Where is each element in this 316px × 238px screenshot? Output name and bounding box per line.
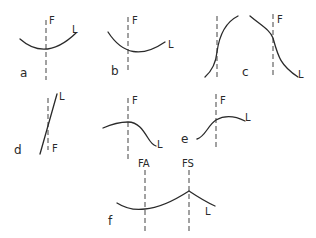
panel-label-d: d <box>14 143 22 157</box>
label-l: L <box>298 69 304 80</box>
curve-l <box>103 122 156 146</box>
panel-a: F L a <box>20 15 78 80</box>
curve-left <box>205 16 238 77</box>
label-f: F <box>220 95 226 106</box>
label-l: L <box>245 112 251 123</box>
label-l: L <box>205 206 211 217</box>
curve-l <box>117 191 215 209</box>
label-fa: FA <box>138 158 150 169</box>
panel-label-b: b <box>111 64 119 78</box>
label-f: F <box>132 15 138 26</box>
panel-label-f: f <box>108 214 113 228</box>
label-f: F <box>277 14 283 25</box>
label-f: F <box>52 143 58 154</box>
panel-label-a: a <box>20 66 27 80</box>
curve-l <box>250 16 298 77</box>
label-l: L <box>168 39 174 50</box>
panel-label-c: c <box>242 65 249 79</box>
panel-c: F L c <box>205 14 304 80</box>
label-f: F <box>132 95 138 106</box>
label-f: F <box>49 15 55 26</box>
panel-e: F L e <box>181 94 251 150</box>
panel-f: FA FS L f <box>108 158 215 234</box>
label-l: L <box>59 91 65 102</box>
curve-l <box>20 33 76 49</box>
panel-label-e: e <box>181 132 188 146</box>
label-l: L <box>157 139 163 150</box>
label-fs: FS <box>182 158 194 169</box>
curve-l <box>108 32 165 52</box>
panel-e-left: F L <box>103 95 163 160</box>
label-l: L <box>72 24 78 35</box>
curve-l <box>197 117 245 139</box>
diagram-canvas: F L a F L b F L c L F d F L F <box>0 0 316 238</box>
panel-d: L F d <box>14 91 65 157</box>
panel-b: F L b <box>108 15 174 78</box>
